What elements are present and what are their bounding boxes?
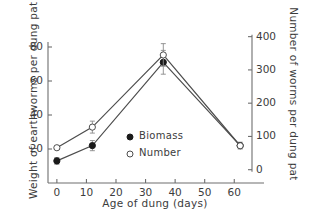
- y-axis-left-tick-label: 40: [17, 108, 43, 120]
- y-axis-right-tick-label: 0: [256, 163, 286, 175]
- y-axis-right-tick-label: 200: [256, 96, 286, 108]
- axes: [48, 35, 264, 183]
- y-axis-right-tick-label: 300: [256, 63, 286, 75]
- data-point-open-circle: [54, 145, 60, 151]
- y-axis-left-tick-label: 80: [17, 40, 43, 52]
- y-axis-left-title: Weight of earthworms per dung pat (g): [27, 9, 39, 199]
- y-axis-right-title: Number of worms per dung pat: [288, 0, 300, 189]
- x-axis-tick-label: 20: [103, 186, 129, 198]
- chart-figure: Weight of earthworms per dung pat (g) Nu…: [0, 0, 317, 222]
- y-axis-left-tick-label: 20: [17, 142, 43, 154]
- y-axis-right-tick-label: 400: [256, 30, 286, 42]
- legend-marker-number: [127, 151, 133, 157]
- x-axis-title: Age of dung (days): [60, 197, 250, 209]
- x-axis-tick-label: 60: [221, 186, 247, 198]
- legend-marker-biomass: [127, 134, 133, 140]
- y-axis-left-tick-label: 60: [17, 74, 43, 86]
- x-axis-tick-label: 40: [162, 186, 188, 198]
- data-point-open-circle: [89, 124, 95, 130]
- legend-label-number: Number: [139, 147, 181, 158]
- x-axis-tick-label: 50: [192, 186, 218, 198]
- x-axis-tick-label: 30: [133, 186, 159, 198]
- x-axis-tick-label: 10: [73, 186, 99, 198]
- data-point-open-circle: [237, 143, 243, 149]
- legend-label-biomass: Biomass: [139, 130, 183, 141]
- data-point-open-circle: [160, 52, 166, 58]
- y-axis-right-tick-label: 100: [256, 129, 286, 141]
- x-axis-tick-label: 0: [44, 186, 70, 198]
- legend-markers: [127, 134, 133, 157]
- data-point-filled-circle: [89, 143, 95, 149]
- data-point-filled-circle: [54, 158, 60, 164]
